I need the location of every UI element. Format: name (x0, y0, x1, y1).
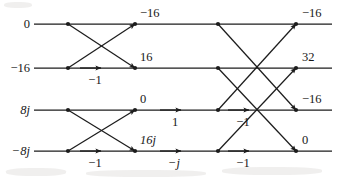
signal-flow-graph (0, 0, 341, 180)
node-s1-r0 (133, 22, 137, 26)
intermediate-label-row-2: 0 (140, 93, 146, 106)
node-s3-r0 (294, 22, 298, 26)
node-s1-r1 (133, 66, 137, 70)
node-s2-r3 (216, 149, 220, 153)
node-s0-r3 (66, 149, 70, 153)
intermediate-label-row-3: 16j (140, 134, 156, 147)
twiddle-stage3-row-2: −1 (236, 116, 249, 129)
output-label-row-2: −16 (302, 93, 322, 106)
node-s2-r2 (216, 108, 220, 112)
node-s2-r1 (216, 66, 220, 70)
output-label-row-3: 0 (302, 134, 308, 147)
input-label-row-1: −16 (10, 62, 30, 75)
output-label-row-0: −16 (302, 7, 322, 20)
twiddle-stage1-row-1: −1 (88, 74, 101, 87)
node-s3-r2 (294, 108, 298, 112)
input-label-row-0: 0 (24, 18, 30, 31)
node-s3-r3 (294, 149, 298, 153)
output-label-row-1: 32 (302, 51, 315, 64)
twiddle-stage3-row-3: −1 (236, 157, 249, 170)
node-s0-r2 (66, 108, 70, 112)
input-label-row-2: 8j (20, 104, 30, 117)
intermediate-label-row-0: −16 (140, 7, 160, 20)
input-label-row-3: −8j (12, 145, 30, 158)
twiddle-stage2-row-3: −j (168, 157, 180, 170)
node-s1-r2 (133, 108, 137, 112)
intermediate-label-row-1: 16 (140, 51, 153, 64)
node-s1-r3 (133, 149, 137, 153)
fft-butterfly-figure: 0 −16 8j −8j −16 16 0 16j −16 32 −16 0 −… (0, 0, 341, 180)
node-s2-r0 (216, 22, 220, 26)
node-s3-r1 (294, 66, 298, 70)
twiddle-stage1-row-3: −1 (88, 157, 101, 170)
twiddle-stage2-row-2: 1 (172, 116, 178, 129)
node-s0-r0 (66, 22, 70, 26)
node-s0-r1 (66, 66, 70, 70)
